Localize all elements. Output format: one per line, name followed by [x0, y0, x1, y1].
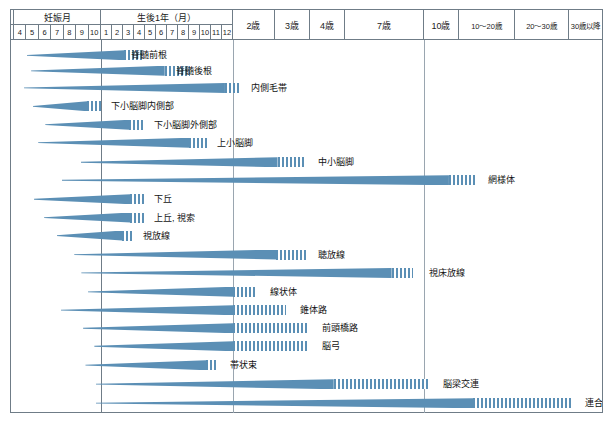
bar-hatch-segment [276, 250, 306, 260]
bar-16 [83, 323, 309, 333]
bar-label-20: 連合野 [585, 399, 602, 408]
bar-label-14: 線状体 [270, 287, 297, 296]
bar-13 [81, 268, 413, 278]
plot-area: 脊髄前根脊髄後根内側毛帯下小脳脚内側部下小脳脚外側部上小脳脚中小脳脚網様体下丘上… [11, 40, 602, 413]
bar-label-9: 下丘 [154, 195, 172, 204]
myelination-timeline-chart: 妊娠月生後1年（月）2歳3歳4歳7歳10歳10～20歳20～30歳30歳以降 4… [0, 0, 613, 422]
bar-label-10: 上丘, 視索 [154, 213, 195, 222]
bar-label-12: 聴放線 [318, 250, 345, 259]
bar-hatch-segment [130, 194, 144, 204]
tick-month-11: 11 [211, 25, 222, 40]
tick-month-12: 12 [222, 25, 233, 40]
header-tick-row: 45678910123456789101112 [11, 25, 602, 40]
tick-gestation-5: 5 [26, 25, 38, 40]
bar-hatch-segment [206, 360, 218, 370]
tick-month-4: 4 [134, 25, 145, 40]
bar-solid-segment [24, 83, 225, 93]
bar-solid-segment [81, 157, 278, 167]
bar-hatch-segment [129, 120, 145, 130]
tick-month-7: 7 [167, 25, 178, 40]
tick-month-5: 5 [145, 25, 156, 40]
gridline-birth [101, 40, 102, 413]
bar-15 [61, 305, 286, 315]
bar-solid-segment [62, 175, 449, 185]
bar-hatch-segment [392, 268, 413, 278]
bar-solid-segment [94, 341, 233, 351]
bar-14 [88, 287, 257, 297]
bar-label-16: 前頭橋路 [322, 324, 358, 333]
bar-17 [94, 341, 309, 351]
tick-gestation-8: 8 [64, 25, 76, 40]
tick-month-3: 3 [123, 25, 134, 40]
tick-month-6: 6 [156, 25, 167, 40]
bar-hatch-segment [87, 101, 101, 111]
gridline-one-year [233, 40, 234, 413]
bar-label-19: 脳梁交連 [443, 380, 479, 389]
bar-solid-segment [81, 268, 391, 278]
bar-5 [45, 120, 145, 130]
tick-gestation-10: 10 [89, 25, 101, 40]
bar-solid-segment [31, 66, 165, 76]
bar-label-13: 視床放線 [429, 268, 465, 277]
bar-10 [44, 213, 144, 223]
bar-hatch-segment [233, 305, 286, 315]
header-left-margin-2 [11, 25, 14, 40]
bar-solid-segment [45, 120, 129, 130]
bar-hatch-segment [473, 398, 572, 408]
bar-solid-segment [96, 398, 474, 408]
bar-label-8: 網様体 [488, 176, 515, 185]
bar-hatch-segment [233, 323, 309, 333]
bar-label-5: 下小脳脚外側部 [154, 120, 217, 129]
bar-label-3: 内側毛帯 [251, 83, 287, 92]
bar-6 [38, 138, 206, 148]
bar-label-7: 中小脳脚 [318, 158, 354, 167]
bar-solid-segment [96, 379, 334, 389]
bar-8 [62, 175, 476, 185]
bar-solid-segment [61, 305, 234, 315]
bar-hatch-segment [225, 83, 241, 93]
bar-label-18: 帯状束 [230, 361, 257, 370]
tick-month-10: 10 [200, 25, 211, 40]
tick-month-8: 8 [178, 25, 189, 40]
bar-hatch-segment [122, 231, 132, 241]
bar-hatch-segment [130, 213, 144, 223]
bar-2 [31, 66, 190, 76]
bar-label-6: 上小脳脚 [217, 138, 253, 147]
bar-19 [96, 379, 429, 389]
bar-solid-segment [88, 287, 233, 297]
bar-solid-segment [44, 213, 130, 223]
bar-hatch-segment [334, 379, 429, 389]
tick-gestation-4: 4 [14, 25, 26, 40]
tick-month-9: 9 [189, 25, 200, 40]
bar-3 [24, 83, 241, 93]
header-left-margin [11, 10, 14, 25]
chart-frame: 妊娠月生後1年（月）2歳3歳4歳7歳10歳10～20歳20～30歳30歳以降 4… [10, 9, 603, 413]
bar-solid-segment [27, 50, 125, 60]
bar-11 [57, 231, 133, 241]
bar-hatch-segment [278, 157, 307, 167]
header-group-postnatal: 生後1年（月） [101, 10, 233, 25]
bar-label-11: 視放線 [143, 231, 170, 240]
tick-gestation-6: 6 [39, 25, 51, 40]
bar-4 [33, 101, 102, 111]
bar-label-2: 脊髄後根 [176, 66, 212, 75]
header-group-row: 妊娠月生後1年（月）2歳3歳4歳7歳10歳10～20歳20～30歳30歳以降 [11, 10, 602, 25]
tick-month-1: 1 [101, 25, 112, 40]
gridline-ten-years [424, 40, 425, 413]
bar-solid-segment [38, 138, 189, 148]
bar-solid-segment [83, 323, 233, 333]
chart-header: 妊娠月生後1年（月）2歳3歳4歳7歳10歳10～20歳20～30歳30歳以降 4… [11, 10, 602, 40]
bar-20 [96, 398, 573, 408]
header-group-gestation: 妊娠月 [14, 10, 101, 25]
bar-18 [85, 360, 218, 370]
bar-solid-segment [34, 194, 130, 204]
bar-label-17: 脳弓 [322, 342, 340, 351]
tick-month-2: 2 [112, 25, 123, 40]
bar-7 [81, 157, 307, 167]
bar-solid-segment [85, 360, 206, 370]
bar-hatch-segment [449, 175, 476, 185]
bar-hatch-segment [233, 341, 309, 351]
bar-solid-segment [57, 231, 123, 241]
tick-gestation-7: 7 [51, 25, 63, 40]
bar-9 [34, 194, 144, 204]
